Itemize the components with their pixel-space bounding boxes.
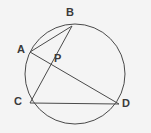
vertex-label-c: C bbox=[14, 96, 22, 107]
vertex-label-b: B bbox=[66, 7, 74, 18]
circle-outline bbox=[25, 24, 125, 124]
vertex-label-p: P bbox=[54, 53, 61, 64]
segment-cd bbox=[30, 103, 119, 104]
vertex-label-d: D bbox=[122, 98, 130, 109]
vertex-label-a: A bbox=[17, 44, 25, 55]
geometry-canvas bbox=[0, 0, 151, 133]
geometry-figure: A B C D P bbox=[0, 0, 151, 133]
segment-bc bbox=[30, 26, 72, 103]
